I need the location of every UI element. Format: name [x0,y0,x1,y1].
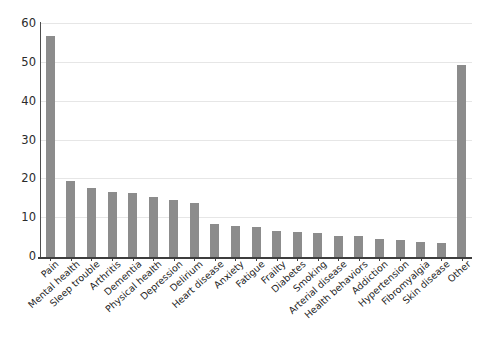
bar[interactable] [354,236,363,257]
y-axis-tick-label: 20 [8,174,36,186]
bar[interactable] [396,240,405,257]
x-axis-tick-mark [112,257,113,261]
bar[interactable] [437,243,446,257]
bar[interactable] [66,181,75,258]
x-axis-tick-mark [441,257,442,261]
y-axis-tick-label: 10 [8,212,36,224]
bar[interactable] [210,224,219,257]
y-axis-tick-labels: 0102030405060 [0,0,36,339]
x-axis-tick-mark [297,257,298,261]
x-axis-tick-mark [421,257,422,261]
x-axis-tick-mark [277,257,278,261]
bar[interactable] [252,227,261,257]
x-axis-tick-mark [359,257,360,261]
y-axis-tick-label: 30 [8,135,36,147]
x-axis-tick-mark [91,257,92,261]
bar[interactable] [416,242,425,257]
bar[interactable] [457,65,466,257]
bar[interactable] [149,197,158,257]
x-axis-tick-mark [338,257,339,261]
bar[interactable] [46,36,55,257]
bar[interactable] [87,188,96,257]
x-axis-tick-mark [71,257,72,261]
x-axis-tick-mark [50,257,51,261]
bar[interactable] [169,200,178,257]
bar[interactable] [334,236,343,257]
bar[interactable] [313,233,322,257]
x-axis-tick-mark [235,257,236,261]
bar-chart: 0102030405060 PainMental healthSleep tro… [0,0,482,339]
x-axis-tick-mark [174,257,175,261]
x-axis-tick-labels: PainMental healthSleep troubleArthritisD… [40,259,482,339]
x-axis-tick-mark [400,257,401,261]
x-axis-tick-mark [133,257,134,261]
bar[interactable] [272,231,281,257]
bar-series [40,24,472,257]
x-axis-tick-label: Other [446,259,472,284]
bar[interactable] [128,193,137,257]
x-axis-tick-mark [318,257,319,261]
x-axis-tick-mark [215,257,216,261]
bar[interactable] [293,232,302,257]
y-axis-tick-label: 0 [8,251,36,263]
x-axis-tick-mark [462,257,463,261]
y-axis-tick-label: 60 [8,18,36,30]
bar[interactable] [231,226,240,257]
x-axis-tick-mark [256,257,257,261]
y-axis-tick-label: 40 [8,96,36,108]
bar[interactable] [190,203,199,257]
x-axis-tick-mark [194,257,195,261]
y-axis-tick-label: 50 [8,57,36,69]
x-axis-tick-mark [153,257,154,261]
x-axis-tick-mark [379,257,380,261]
bar[interactable] [375,239,384,257]
bar[interactable] [108,192,117,257]
